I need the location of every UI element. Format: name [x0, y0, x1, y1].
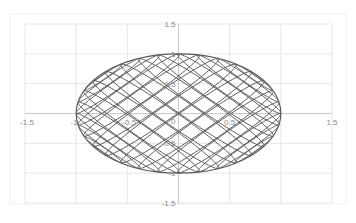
axes	[25, 24, 332, 203]
x-tick-label: 1.5	[326, 118, 338, 127]
chart-canvas: -1.5-1-0.50.511.51.510.50-0.5-1-1.5	[0, 0, 356, 223]
y-tick-label: 1.5	[164, 20, 176, 29]
x-tick-label: -0.5	[122, 118, 136, 127]
x-tick-label: -1	[71, 118, 79, 127]
x-tick-label: -1.5	[20, 118, 34, 127]
y-tick-label: 0.5	[164, 80, 176, 89]
y-tick-label: -1	[168, 169, 176, 178]
x-tick-label: 1	[277, 118, 282, 127]
y-tick-label: 1	[171, 50, 176, 59]
mesh-curve	[84, 136, 122, 163]
y-tick-label: -0.5	[162, 139, 176, 148]
y-tick-label: 0	[171, 117, 176, 126]
mesh-curve	[234, 64, 272, 91]
y-tick-label: -1.5	[162, 199, 176, 208]
x-tick-label: 0.5	[224, 118, 236, 127]
mesh-curve	[84, 64, 122, 91]
mesh-curve	[234, 136, 272, 163]
